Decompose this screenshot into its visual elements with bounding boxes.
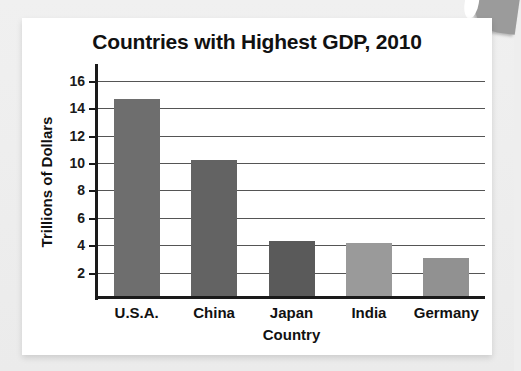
y-axis-tick-mark: [89, 245, 96, 247]
x-axis-tick-label: India: [351, 304, 386, 321]
y-axis-tick-mark: [89, 136, 96, 138]
y-axis-tick-mark: [89, 163, 96, 165]
bar: [114, 99, 160, 296]
x-axis-title: Country: [98, 326, 485, 343]
x-axis-tick-labels: U.S.A.ChinaJapanIndiaGermany: [98, 304, 485, 324]
y-axis-tick-mark: [89, 218, 96, 220]
bar: [423, 258, 469, 296]
y-axis-tick-mark: [89, 108, 96, 110]
bars-layer: [98, 63, 485, 296]
y-axis-tick-mark: [89, 273, 96, 275]
chart-title: Countries with Highest GDP, 2010: [22, 30, 492, 54]
plot-area: 246810121416: [95, 64, 485, 299]
y-axis-tick-label: 16: [69, 73, 85, 89]
bar: [191, 160, 237, 296]
y-axis-tick-mark: [89, 81, 96, 83]
y-axis-tick-label: 12: [69, 128, 85, 144]
x-axis-tick-label: China: [193, 304, 235, 321]
y-axis-tick-label: 6: [77, 210, 85, 226]
x-axis-tick-label: U.S.A.: [115, 304, 159, 321]
chart-card: Countries with Highest GDP, 2010 Trillio…: [22, 18, 492, 355]
y-axis-tick-label: 10: [69, 155, 85, 171]
y-axis-title: Trillions of Dollars: [38, 64, 56, 300]
x-axis-tick-label: Germany: [414, 304, 479, 321]
x-axis-tick-label: Japan: [270, 304, 313, 321]
bar: [269, 241, 315, 296]
y-axis-tick-label: 14: [69, 100, 85, 116]
y-axis-tick-mark: [89, 190, 96, 192]
y-axis-tick-label: 8: [77, 182, 85, 198]
bar: [346, 243, 392, 296]
y-axis-tick-label: 4: [77, 237, 85, 253]
x-axis-line: [95, 296, 485, 299]
y-axis-tick-label: 2: [77, 265, 85, 281]
